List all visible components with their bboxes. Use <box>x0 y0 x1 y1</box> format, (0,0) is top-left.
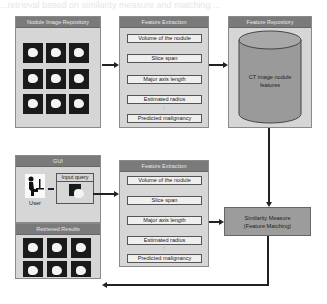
arrow-similarity-down <box>267 236 269 286</box>
similarity-line1: Similarity Measure <box>225 214 310 222</box>
result-image-tile[interactable] <box>23 261 43 277</box>
nodule-image-tile <box>69 94 89 114</box>
result-image-tile[interactable] <box>47 238 67 258</box>
similarity-line2: (Feature Matching) <box>225 222 310 230</box>
nodule-image-tile <box>23 69 43 89</box>
arrow-extraction-to-similarity <box>209 221 219 223</box>
nodule-image-tile <box>46 43 66 63</box>
background-text-top: ...retrieval based on similarity measure… <box>0 0 327 10</box>
feature-predicted-malignancy: Predicted malignancy <box>127 254 202 263</box>
nodule-image-tile <box>23 43 43 63</box>
feature-major-axis: Major axis length <box>127 216 202 225</box>
nodule-image-tile <box>23 94 43 114</box>
feature-estimated-radius: Estimated radius <box>127 95 202 104</box>
arrow-user-to-query <box>48 188 54 190</box>
result-image-tile[interactable] <box>71 238 91 258</box>
nodule-image-tile <box>69 69 89 89</box>
input-query-box[interactable]: Input query <box>56 173 94 204</box>
feature-ellipsis: : <box>120 105 208 110</box>
arrow-similarity-to-results <box>107 284 269 286</box>
database-label: CT image nodule features <box>229 73 311 89</box>
user-at-computer-icon <box>25 174 45 198</box>
db-label-line1: CT image nodule <box>229 73 311 81</box>
feature-ellipsis: : <box>120 246 208 251</box>
arrow-head-icon <box>102 282 107 288</box>
result-image-tile[interactable] <box>71 261 91 277</box>
nodule-image-repository-panel: Nodule Image Repository <box>15 16 101 128</box>
feature-extraction-bottom-title: Feature Extraction <box>120 161 208 172</box>
feature-major-axis: Major axis length <box>127 75 202 84</box>
feature-repository-panel: Feature Repository CT image nodule featu… <box>228 16 312 128</box>
nodule-image-tile <box>46 69 66 89</box>
arrow-repo-to-extraction <box>102 64 114 66</box>
db-label-line2: features <box>229 81 311 89</box>
feature-estimated-radius: Estimated radius <box>127 236 202 245</box>
feature-predicted-malignancy: Predicted malignancy <box>127 114 202 123</box>
feature-volume: Volume of the nodule <box>127 176 202 185</box>
query-nodule-image <box>69 184 81 196</box>
retrieved-results-panel: Retrieved Results <box>15 223 101 279</box>
arrow-feature-repo-to-similarity <box>268 128 270 203</box>
feature-extraction-top-title: Feature Extraction <box>120 17 208 28</box>
feature-volume: Volume of the nodule <box>127 34 202 43</box>
result-image-tile[interactable] <box>23 238 43 258</box>
feature-slice-span: Slice span <box>127 196 202 205</box>
feature-repository-title: Feature Repository <box>229 17 311 28</box>
gui-title: GUI <box>16 156 100 167</box>
gui-panel: GUI User Input query <box>15 155 101 223</box>
nodule-image-tile <box>46 94 66 114</box>
arrow-query-to-extraction <box>93 193 114 195</box>
user-label: User <box>24 200 46 206</box>
nodule-repository-title: Nodule Image Repository <box>16 17 100 28</box>
feature-extraction-bottom-panel: Feature Extraction Volume of the nodule … <box>119 160 209 267</box>
result-image-tile[interactable] <box>47 261 67 277</box>
input-query-label: Input query <box>57 174 93 182</box>
feature-slice-span: Slice span <box>127 54 202 63</box>
feature-extraction-top-panel: Feature Extraction Volume of the nodule … <box>119 16 209 128</box>
similarity-measure-box: Similarity Measure (Feature Matching) <box>224 207 311 236</box>
retrieved-results-title: Retrieved Results <box>16 224 100 235</box>
arrow-extraction-to-feature-repo <box>209 64 223 66</box>
nodule-image-tile <box>69 43 89 63</box>
